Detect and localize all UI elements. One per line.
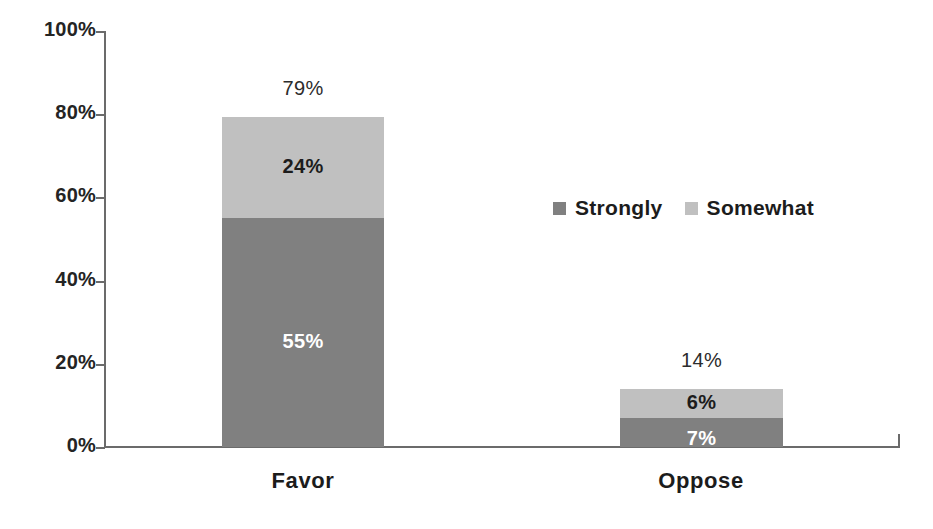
legend-label-somewhat: Somewhat [707,196,814,220]
legend-label-strongly: Strongly [575,196,663,220]
legend-item-strongly[interactable]: Strongly [553,196,663,220]
y-axis-tick-mark-100 [96,31,105,33]
y-axis-tick-label-100: 100% [10,18,96,41]
bar-favor-segment-somewhat[interactable]: 24% [222,117,384,218]
y-axis-line [104,31,106,448]
bar-oppose-strongly-value: 7% [620,427,783,447]
x-axis-end-tick [898,434,900,447]
bar-favor-segment-strongly[interactable]: 55% [222,218,384,447]
legend: Strongly Somewhat [553,196,814,220]
legend-swatch-somewhat-icon [685,202,698,215]
y-axis-tick-mark-40 [96,281,105,283]
bar-favor-strongly-value: 55% [222,330,384,353]
y-axis-tick-label-60: 60% [10,184,96,207]
bar-favor-total-value: 79% [222,77,384,100]
y-axis-tick-label-80: 80% [10,101,96,124]
y-axis-tick-mark-80 [96,114,105,116]
bar-oppose-somewhat-value: 6% [620,391,783,414]
y-axis-tick-mark-60 [96,197,105,199]
y-axis-tick-mark-20 [96,364,105,366]
y-axis-tick-label-0: 0% [10,434,96,457]
x-axis-category-label-favor: Favor [212,468,394,494]
bar-oppose-segment-somewhat[interactable]: 6% [620,389,783,418]
x-axis-category-label-oppose: Oppose [608,468,794,494]
bar-oppose-total-value: 14% [620,349,783,372]
y-axis-tick-label-40: 40% [10,268,96,291]
bar-oppose[interactable]: 6% 7% [620,389,783,447]
legend-item-somewhat[interactable]: Somewhat [685,196,814,220]
bar-favor-somewhat-value: 24% [222,155,384,178]
bar-favor[interactable]: 24% 55% [222,117,384,447]
y-axis-tick-label-20: 20% [10,351,96,374]
bar-oppose-segment-strongly[interactable]: 7% [620,418,783,447]
stacked-bar-chart: 100% 80% 60% 40% 20% 0% 24% 55% 79% Favo… [0,0,933,529]
legend-swatch-strongly-icon [553,202,566,215]
